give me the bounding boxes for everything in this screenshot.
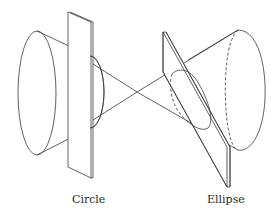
right-cone-base-front-arc [238,30,265,150]
left-lower-apex-line [93,92,137,120]
circle-plane-face [68,12,91,178]
circle-cutting-plane [68,12,93,178]
ellipse-label: Ellipse [207,193,245,206]
double-cone-drawing [0,0,277,220]
right-cone-top-edge [188,30,238,60]
left-cone-base-ellipse [18,31,56,155]
left-upper-apex-line [93,64,137,92]
circle-label: Circle [72,193,105,206]
right-cone-base-hidden-arc [225,30,238,150]
conic-sections-diagram: Circle Ellipse [0,0,277,220]
